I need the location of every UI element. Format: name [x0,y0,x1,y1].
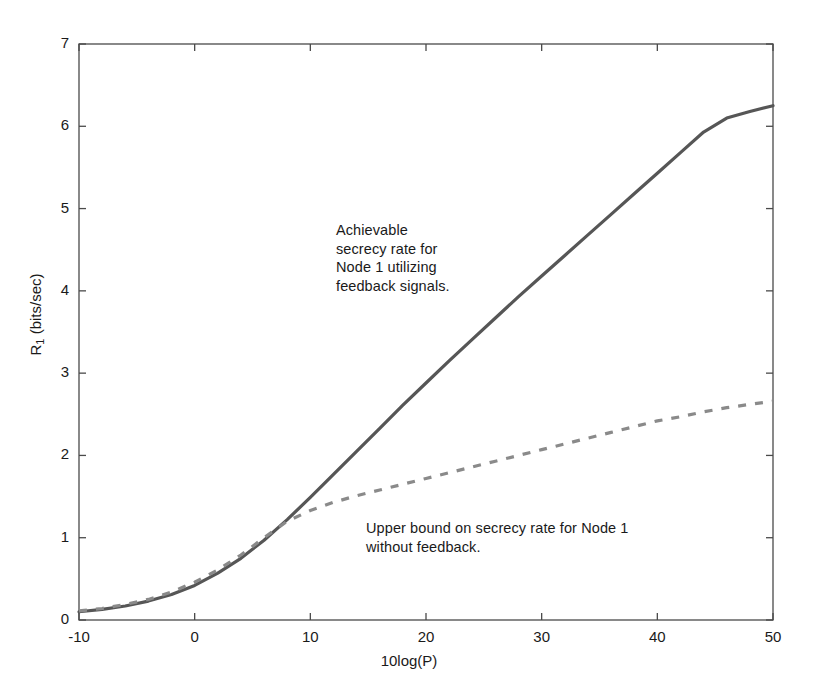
x-tick-label: -10 [49,628,109,645]
y-tick-label: 7 [27,34,69,51]
y-tick-label: 0 [27,610,69,627]
annotation-upper-bound: Upper bound on secrecy rate for Node 1 w… [366,519,629,556]
annotation-achievable-rate: Achievable secrecy rate for Node 1 utili… [336,221,450,295]
x-tick-label: 10 [280,628,340,645]
y-axis-label-symbol: R [27,345,44,356]
chart-svg [0,0,818,688]
x-tick-label: 0 [165,628,225,645]
y-tick-label: 5 [27,199,69,216]
x-tick-label: 50 [743,628,803,645]
y-tick-label: 6 [27,116,69,133]
x-tick-label: 30 [512,628,572,645]
y-tick-label: 1 [27,528,69,545]
y-axis-label-subscript: 1 [34,339,46,345]
chart-figure: -100102030405001234567 Achievable secrec… [0,0,818,688]
x-axis-label: 10log(P) [0,652,818,669]
figure-background [0,0,818,688]
y-tick-label: 2 [27,445,69,462]
x-tick-label: 20 [396,628,456,645]
x-tick-label: 40 [627,628,687,645]
y-axis-label-units: (bits/sec) [27,274,44,339]
y-axis-label: R1 (bits/sec) [27,235,46,395]
